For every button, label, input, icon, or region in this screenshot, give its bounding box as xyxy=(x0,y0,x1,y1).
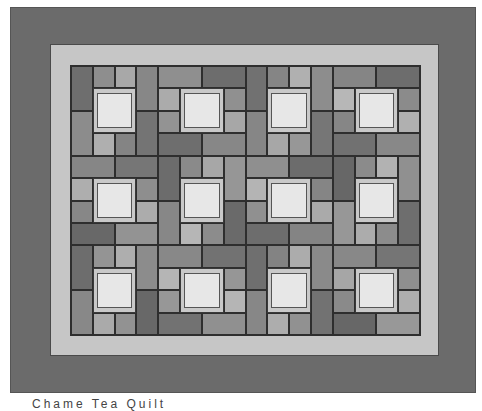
quilt-patch-mid xyxy=(115,313,136,335)
quilt-center-square xyxy=(93,178,136,223)
quilt-patch-mid xyxy=(376,223,398,245)
quilt-patch-light xyxy=(115,66,136,88)
quilt-center-square xyxy=(180,268,224,313)
quilt-patch-light xyxy=(115,245,136,268)
quilt-center-fill xyxy=(271,183,307,218)
quilt-patch-dark xyxy=(136,111,158,156)
quilt-patch-mid xyxy=(398,156,420,201)
quilt-center-square xyxy=(180,88,224,133)
quilt-patch-mid xyxy=(398,88,420,111)
quilt-patch-light xyxy=(224,111,246,133)
quilt-patch-light xyxy=(93,133,115,156)
quilt-patch-mid xyxy=(333,201,355,245)
quilt-center-square xyxy=(267,88,311,133)
quilt-patch-mid xyxy=(71,156,115,178)
quilt-patch-mid xyxy=(136,245,158,290)
quilt-patch-light xyxy=(398,111,420,133)
quilt-patch-light xyxy=(267,133,289,156)
quilt-patch-mid xyxy=(136,66,158,111)
quilt-patch-mid xyxy=(289,223,333,245)
quilt-patch-light xyxy=(93,313,115,335)
quilt-center-fill xyxy=(97,273,132,308)
quilt-center-square xyxy=(267,178,311,223)
quilt-center-square xyxy=(180,178,224,223)
quilt-center-square xyxy=(355,178,398,223)
quilt-patch-light xyxy=(158,88,180,111)
quilt-patch-mid xyxy=(224,88,246,111)
quilt-patch-light xyxy=(333,88,355,111)
quilt-center-fill xyxy=(271,273,307,308)
quilt-patch-mid xyxy=(333,111,355,133)
quilt-center-fill xyxy=(184,273,220,308)
quilt-patch-mid xyxy=(202,313,246,335)
quilt-center-fill xyxy=(359,183,394,218)
quilt-patch-light xyxy=(398,290,420,313)
quilt-patch-mid xyxy=(333,245,376,268)
quilt-patch-mid xyxy=(180,156,202,178)
quilt-patch-dark xyxy=(333,133,376,156)
quilt-patch-light xyxy=(136,201,158,223)
quilt-patch-mid xyxy=(158,245,202,268)
quilt-caption: Chame Tea Quilt xyxy=(32,397,166,411)
quilt-patch-dark xyxy=(333,313,376,335)
quilt-patch-dark xyxy=(158,313,202,335)
quilt-patch-mid xyxy=(311,66,333,111)
quilt-center-fill xyxy=(97,183,132,218)
quilt-patch-dark xyxy=(115,156,158,178)
quilt-patch-mid xyxy=(71,290,93,335)
quilt-center-square xyxy=(93,88,136,133)
quilt-center-fill xyxy=(359,273,394,308)
quilt-patch-mid xyxy=(267,245,289,268)
quilt-patch-dark xyxy=(246,223,289,245)
quilt-patch-dark xyxy=(376,66,420,88)
quilt-patch-mid xyxy=(355,156,376,178)
quilt-patch-mid xyxy=(158,111,180,133)
quilt-center-fill xyxy=(184,183,220,218)
quilt-patch-light xyxy=(355,223,376,245)
quilt-patch-mid xyxy=(376,313,420,335)
quilt-patch-mid xyxy=(115,133,136,156)
quilt-patch-mid xyxy=(333,66,376,88)
quilt-patch-mid xyxy=(246,201,267,223)
quilt-patch-mid xyxy=(93,66,115,88)
quilt-patch-mid xyxy=(311,245,333,290)
quilt-patch-dark xyxy=(202,245,246,268)
quilt-patch-mid xyxy=(224,156,246,201)
quilt-patch-mid xyxy=(71,111,93,156)
quilt-patch-dark xyxy=(71,66,93,111)
quilt-center-square xyxy=(93,268,136,313)
quilt-patch-dark xyxy=(71,245,93,290)
quilt-patch-light xyxy=(311,201,333,223)
quilt-patch-mid xyxy=(115,223,158,245)
quilt-center-fill xyxy=(359,93,394,128)
quilt-patch-light xyxy=(246,178,267,201)
quilt-patch-mid xyxy=(224,268,246,290)
quilt-center-fill xyxy=(271,93,307,128)
quilt-patch-dark xyxy=(71,223,115,245)
quilt-patch-light xyxy=(376,156,398,178)
quilt-patchwork xyxy=(71,66,420,335)
quilt-patch-mid xyxy=(158,66,202,88)
quilt-patch-mid xyxy=(333,290,355,313)
quilt-patch-mid xyxy=(246,111,267,156)
quilt-patch-mid xyxy=(289,313,311,335)
quilt-patch-dark xyxy=(158,156,180,201)
quilt-patch-dark xyxy=(311,111,333,156)
quilt-patch-dark xyxy=(246,245,267,290)
quilt-patch-dark xyxy=(333,156,355,201)
quilt-center-square xyxy=(267,268,311,313)
quilt-patch-mid xyxy=(158,201,180,245)
quilt-patch-mid xyxy=(398,268,420,290)
quilt-patch-light xyxy=(71,178,93,201)
quilt-patch-light xyxy=(180,223,202,245)
quilt-patch-light xyxy=(267,313,289,335)
quilt-center-fill xyxy=(97,93,132,128)
quilt-patch-dark xyxy=(202,66,246,88)
quilt-patch-mid xyxy=(202,133,246,156)
quilt-patch-mid xyxy=(311,178,333,201)
quilt-patch-light xyxy=(158,268,180,290)
quilt-patch-dark xyxy=(224,201,246,245)
quilt-patch-dark xyxy=(158,133,202,156)
quilt-patch-mid xyxy=(246,290,267,335)
quilt-patch-light xyxy=(289,66,311,88)
